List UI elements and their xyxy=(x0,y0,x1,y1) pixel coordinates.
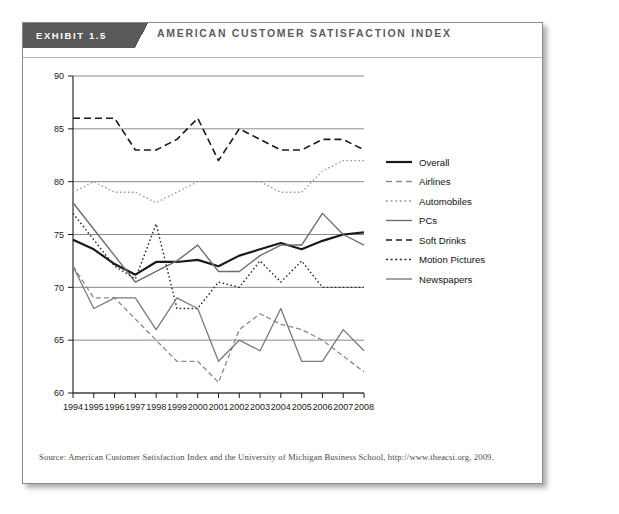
y-tick-label-65: 65 xyxy=(54,335,64,345)
x-tick-label-2002: 2002 xyxy=(229,402,249,412)
exhibit-number-tab: EXHIBIT 1.5 xyxy=(23,23,135,48)
legend-label-overall: Overall xyxy=(419,157,449,168)
y-tick-label-90: 90 xyxy=(54,71,64,81)
y-tick-label-85: 85 xyxy=(54,124,64,134)
y-tick-label-75: 75 xyxy=(54,230,64,240)
legend-label-automobiles: Automobiles xyxy=(419,196,472,207)
data-series xyxy=(73,118,364,382)
x-tick-label-2001: 2001 xyxy=(208,402,228,412)
x-tick-label-2004: 2004 xyxy=(271,402,291,412)
exhibit-tab-corner xyxy=(135,23,148,48)
x-tick-label-1995: 1995 xyxy=(84,402,104,412)
legend-label-motion-pictures: Motion Pictures xyxy=(419,254,485,265)
x-tick-label-2005: 2005 xyxy=(292,402,312,412)
x-tick-label-1994: 1994 xyxy=(63,402,83,412)
exhibit-header: EXHIBIT 1.5 AMERICAN CUSTOMER SATISFACTI… xyxy=(23,23,542,58)
y-tick-label-60: 60 xyxy=(54,388,64,398)
series-line-motion-pictures xyxy=(73,213,364,308)
axes xyxy=(68,76,364,398)
source-note: Source: American Customer Satisfaction I… xyxy=(39,452,534,462)
x-tick-label-2006: 2006 xyxy=(312,402,332,412)
chart-region: 60657075808590 1994199519961997199819992… xyxy=(23,58,544,453)
x-tick-label-2003: 2003 xyxy=(250,402,270,412)
exhibit-card: EXHIBIT 1.5 AMERICAN CUSTOMER SATISFACTI… xyxy=(22,22,543,484)
x-tick-label-2000: 2000 xyxy=(188,402,208,412)
y-axis-tick-labels: 60657075808590 xyxy=(54,71,64,398)
line-chart: 60657075808590 1994199519961997199819992… xyxy=(23,58,544,453)
legend-label-soft-drinks: Soft Drinks xyxy=(419,235,466,246)
legend-label-pcs: PCs xyxy=(419,215,437,226)
legend-label-airlines: Airlines xyxy=(419,176,451,187)
x-tick-label-1996: 1996 xyxy=(105,402,125,412)
series-line-soft-drinks xyxy=(73,118,364,160)
x-tick-label-1999: 1999 xyxy=(167,402,187,412)
series-line-airlines xyxy=(73,266,364,382)
series-line-newspapers xyxy=(73,266,364,361)
y-tick-label-80: 80 xyxy=(54,177,64,187)
x-axis-tick-labels: 1994199519961997199819992000200120022003… xyxy=(63,402,374,412)
grid-lines xyxy=(73,76,364,393)
chart-legend: OverallAirlinesAutomobilesPCsSoft Drinks… xyxy=(386,157,485,285)
legend-label-newspapers: Newspapers xyxy=(419,274,473,285)
x-tick-label-1998: 1998 xyxy=(146,402,166,412)
page-title: AMERICAN CUSTOMER SATISFACTION INDEX xyxy=(157,27,452,39)
y-tick-label-70: 70 xyxy=(54,283,64,293)
screenshot-root: EXHIBIT 1.5 AMERICAN CUSTOMER SATISFACTI… xyxy=(0,0,619,514)
x-tick-label-1997: 1997 xyxy=(125,402,145,412)
x-tick-label-2008: 2008 xyxy=(354,402,374,412)
x-tick-label-2007: 2007 xyxy=(333,402,353,412)
series-line-overall xyxy=(73,232,364,274)
